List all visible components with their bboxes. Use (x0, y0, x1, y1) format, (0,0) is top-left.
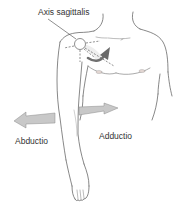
joint-circle (75, 39, 86, 50)
shoulder-movement-diagram: Axis sagittalis Abductio Adductio (0, 0, 179, 213)
arm-outline (57, 42, 89, 201)
anatomy-illustration (0, 0, 179, 213)
adduction-arrow (79, 103, 118, 115)
adduction-label: Adductio (99, 132, 132, 141)
axis-sagittalis-label: Axis sagittalis (38, 8, 90, 17)
torso-outline (60, 12, 172, 120)
axis-pointer-line (48, 19, 76, 39)
abduction-arrow (14, 112, 55, 128)
abduction-label: Abductio (15, 137, 48, 146)
